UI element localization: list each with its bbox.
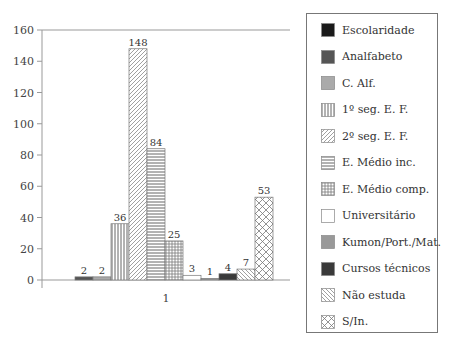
y-tick-label: 40 [20, 212, 34, 225]
legend-swatch-icon [321, 182, 335, 196]
legend-label: E. Médio comp. [342, 183, 429, 196]
legend-item: Kumon/Port./Mat. [321, 234, 441, 250]
legend-swatch-icon [321, 50, 335, 64]
y-tick-label: 120 [13, 87, 34, 100]
legend-swatch-icon [321, 235, 335, 249]
bar-value-label: 25 [168, 229, 181, 240]
bar [183, 275, 201, 280]
x-axis-labels: 1 [163, 292, 170, 305]
legend-item: C. Alf. [321, 75, 376, 91]
legend-swatch-icon [321, 209, 335, 223]
bar-value-label: 1 [207, 266, 213, 277]
bar-value-label: 7 [243, 257, 249, 268]
legend-item: Cursos técnicos [321, 261, 430, 277]
legend-swatch-icon [321, 262, 335, 276]
y-tick-label: 0 [27, 274, 34, 287]
bar [237, 269, 255, 280]
bar-value-label: 3 [189, 263, 195, 274]
y-tick-label: 60 [20, 180, 34, 193]
legend-swatch-icon [321, 103, 335, 117]
bar [255, 197, 273, 280]
bar-value-label: 84 [150, 137, 163, 148]
legend-swatch-icon [321, 76, 335, 90]
bar-value-label: 36 [114, 212, 127, 223]
y-tick-label: 160 [13, 24, 34, 37]
legend-swatch-icon [321, 23, 335, 37]
x-tick-label: 1 [163, 292, 170, 305]
legend-swatch-icon [321, 156, 335, 170]
y-tick-label: 140 [13, 55, 34, 68]
y-tick-label: 80 [20, 149, 34, 162]
legend-item: E. Médio comp. [321, 181, 429, 197]
bar [111, 224, 129, 280]
legend-label: S/In. [342, 315, 368, 328]
legend-item: 1º seg. E. F. [321, 102, 408, 118]
legend-label: Analfabeto [342, 50, 402, 63]
legend-label: Não estuda [342, 289, 406, 302]
bar-value-label: 53 [258, 185, 271, 196]
bar-chart: 020406080100120140160 22361488425314753 … [0, 0, 300, 347]
legend-item: Universitário [321, 208, 415, 224]
chart-legend: EscolaridadeAnalfabetoC. Alf.1º seg. E. … [306, 13, 438, 333]
legend-item: Escolaridade [321, 22, 414, 38]
legend-swatch-icon [321, 288, 335, 302]
chart-bars: 22361488425314753 [75, 37, 273, 280]
bar [201, 278, 219, 280]
legend-item: Analfabeto [321, 49, 402, 65]
bar-value-label: 148 [128, 37, 147, 48]
bar [147, 149, 165, 280]
bar [165, 241, 183, 280]
legend-label: E. Médio inc. [342, 156, 416, 169]
bar [93, 277, 111, 280]
legend-label: Escolaridade [342, 24, 414, 37]
y-tick-label: 100 [13, 118, 34, 131]
bar [129, 49, 147, 280]
legend-item: Não estuda [321, 287, 406, 303]
legend-label: Universitário [342, 209, 415, 222]
legend-swatch-icon [321, 129, 335, 143]
legend-label: Kumon/Port./Mat. [342, 236, 441, 249]
bar-value-label: 2 [81, 265, 87, 276]
bar-value-label: 4 [225, 262, 231, 273]
y-tick-label: 20 [20, 243, 34, 256]
legend-item: S/In. [321, 314, 368, 330]
bar-value-label: 2 [99, 265, 105, 276]
legend-label: 1º seg. E. F. [342, 103, 408, 116]
bar [219, 274, 237, 280]
legend-label: Cursos técnicos [342, 262, 430, 275]
legend-item: E. Médio inc. [321, 155, 416, 171]
legend-label: C. Alf. [342, 77, 376, 90]
bar [75, 277, 93, 280]
legend-label: 2º seg. E. F. [342, 130, 408, 143]
legend-swatch-icon [321, 315, 335, 329]
legend-item: 2º seg. E. F. [321, 128, 408, 144]
